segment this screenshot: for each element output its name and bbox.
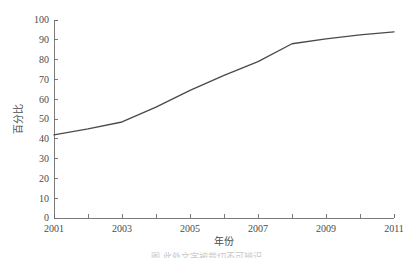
- y-axis-tick-label: 10: [39, 193, 49, 204]
- clipped-caption: 图 此处文字被裁切不可辨识: [0, 247, 413, 258]
- x-axis-tick-label: 2011: [384, 223, 404, 234]
- line-chart: 0102030405060708090100200120032005200720…: [0, 0, 413, 258]
- x-axis-tick-label: 2005: [180, 223, 200, 234]
- x-axis-tick-label: 2001: [44, 223, 64, 234]
- y-axis-title: 百分比: [13, 104, 24, 134]
- data-series-line: [54, 32, 394, 135]
- y-axis-tick-label: 20: [39, 173, 49, 184]
- y-axis-tick-label: 30: [39, 153, 49, 164]
- y-axis-tick-label: 100: [34, 14, 49, 25]
- x-axis-tick-label: 2003: [112, 223, 132, 234]
- y-axis-tick-label: 80: [39, 54, 49, 65]
- x-axis-title: 年份: [214, 235, 234, 247]
- y-axis-tick-label: 60: [39, 94, 49, 105]
- y-axis-tick-label: 50: [39, 113, 49, 124]
- x-axis-tick-label: 2007: [248, 223, 268, 234]
- y-axis-tick-label: 90: [39, 34, 49, 45]
- y-axis-tick-label: 70: [39, 74, 49, 85]
- x-axis-tick-label: 2009: [316, 223, 336, 234]
- y-axis-tick-label: 40: [39, 133, 49, 144]
